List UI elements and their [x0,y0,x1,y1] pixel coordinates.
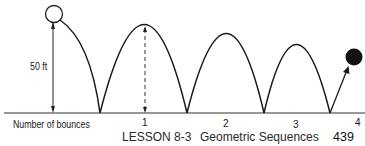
tick-label-3: 3 [293,120,299,130]
tick-label-1: 1 [142,118,148,128]
final-arrow [330,66,350,113]
bounce-arc-3 [264,45,330,114]
height-arrow [51,22,55,113]
footer-lesson: LESSON 8-3 [122,131,191,143]
height-label: 50 ft [30,62,47,72]
bounce-arc-1 [100,25,187,114]
tick-label-4: 4 [355,118,361,128]
ball-end-icon [346,49,363,66]
ball-start-icon [46,6,63,23]
footer-title: Geometric Sequences [200,131,319,143]
axis-label: Number of bounces [13,120,90,130]
drop-path [60,20,100,113]
bounce-arc-2 [187,34,264,114]
tick-label-2: 2 [223,119,229,129]
bounce-1-height-arrow [143,26,147,113]
page-number: 439 [333,131,354,143]
